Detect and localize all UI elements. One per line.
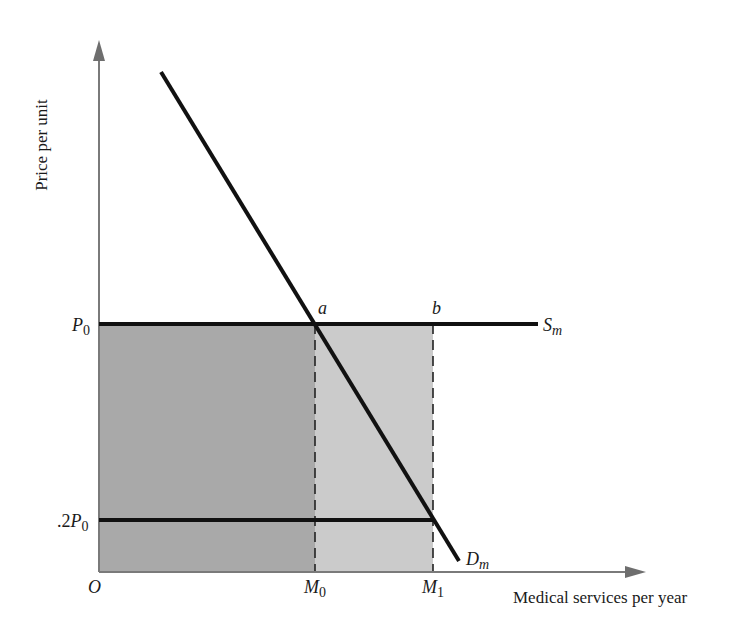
point-b-label: b xyxy=(432,298,441,318)
x-axis-label: Medical services per year xyxy=(513,588,687,607)
point-a-label: a xyxy=(318,298,327,318)
x-axis-arrow-icon xyxy=(625,566,646,578)
y-axis-arrow-icon xyxy=(93,40,105,61)
economics-diagram: Price per unit P0 .2P0 O M0 M1 a b Sm Dm… xyxy=(0,0,753,635)
m0-label: M0 xyxy=(303,577,326,600)
demand-label: Dm xyxy=(465,549,489,572)
origin-label: O xyxy=(88,577,101,597)
m1-label: M1 xyxy=(421,577,444,600)
02p0-label: .2P0 xyxy=(57,511,89,534)
supply-label: Sm xyxy=(543,315,562,338)
shaded-area-m0-to-m1 xyxy=(315,324,433,572)
p0-label: P0 xyxy=(71,315,90,338)
shaded-area-o-to-m0 xyxy=(99,324,315,572)
y-axis-label: Price per unit xyxy=(32,99,51,191)
